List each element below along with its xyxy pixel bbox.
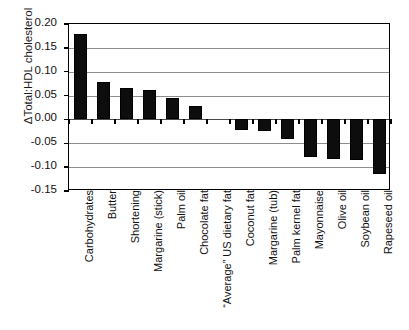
bar — [189, 106, 203, 119]
bar — [373, 119, 387, 174]
chart-figure: ΔTotal:HDL cholesterol 0.200.150.100.050… — [0, 0, 409, 330]
bar — [235, 119, 249, 129]
x-tick-label: Butter — [107, 190, 118, 219]
x-tick-label: Shortening — [130, 190, 141, 243]
bar — [327, 119, 341, 158]
x-tick-mark — [390, 119, 391, 124]
bar — [74, 34, 88, 119]
bar — [120, 88, 134, 119]
x-tick-label: “Average” US dietary fat — [222, 190, 233, 308]
bar — [281, 119, 295, 138]
bar — [166, 98, 180, 119]
x-tick-label: Soybean oil — [360, 190, 371, 248]
x-tick-label: Rapeseed oil — [383, 190, 394, 254]
x-tick-label: Olive oil — [337, 190, 348, 229]
x-tick-label: Margarine (stick) — [153, 190, 164, 272]
x-tick-label: Palm kernel fat — [291, 190, 302, 263]
x-axis-tick-labels: CarbohydratesButterShorteningMargarine (… — [68, 190, 390, 330]
y-axis-tick-labels: 0.200.150.100.050.00-0.05-0.10-0.15 — [0, 0, 64, 200]
x-tick-label: Chocolate fat — [199, 190, 210, 255]
bar — [97, 82, 111, 119]
y-tick-label: 0.15 — [35, 41, 57, 53]
x-tick-label: Carbohydrates — [84, 190, 95, 262]
bars-layer — [69, 24, 389, 189]
bar — [258, 119, 272, 131]
y-tick-label: -0.15 — [31, 184, 57, 196]
x-tick-label: Palm oil — [176, 190, 187, 229]
bar — [143, 90, 157, 120]
bar — [350, 119, 364, 160]
y-tick-label: 0.10 — [35, 65, 57, 77]
y-tick-label: 0.00 — [35, 113, 57, 125]
x-tick-label: Mayonnaise — [314, 190, 325, 249]
bar — [304, 119, 318, 156]
y-tick-label: -0.10 — [31, 160, 57, 172]
x-tick-label: Coconut fat — [245, 190, 256, 246]
y-tick-label: 0.05 — [35, 89, 57, 101]
x-tick-label: Margarine (tub) — [268, 190, 279, 265]
y-tick-label: -0.05 — [31, 137, 57, 149]
y-tick-label: 0.20 — [35, 17, 57, 29]
plot-area — [68, 23, 390, 190]
